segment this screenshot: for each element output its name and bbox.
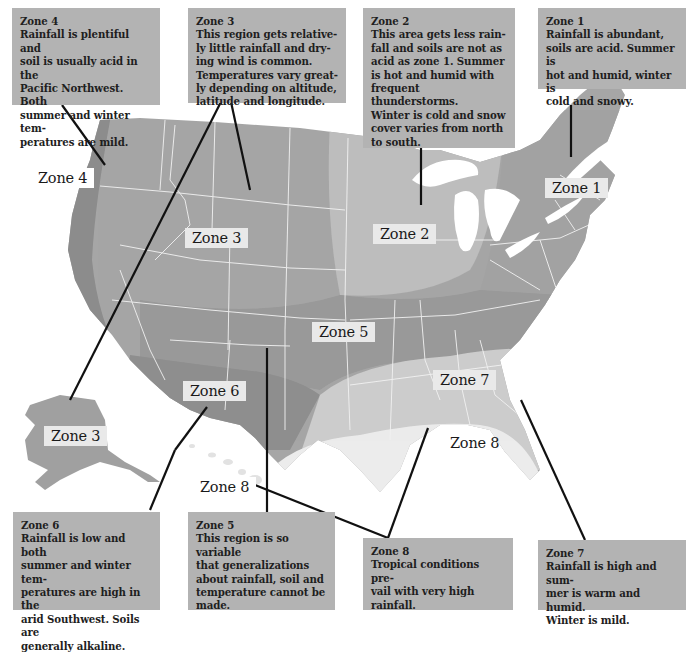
note-body: This area gets less rain- fall and soils… bbox=[371, 28, 507, 149]
note-title: Zone 2 bbox=[371, 15, 507, 28]
note-zone-4: Zone 4 Rainfall is plentiful and soil is… bbox=[12, 8, 160, 105]
note-zone-5: Zone 5 This region is so variable that g… bbox=[188, 512, 335, 610]
map-label-zone-1: Zone 1 bbox=[545, 178, 608, 198]
note-body: Rainfall is low and both summer and wint… bbox=[21, 532, 152, 653]
note-title: Zone 5 bbox=[196, 519, 327, 532]
note-title: Zone 3 bbox=[196, 15, 338, 28]
note-title: Zone 1 bbox=[546, 15, 678, 28]
map-label-zone-6: Zone 6 bbox=[183, 381, 246, 401]
note-body: This region is so variable that generali… bbox=[196, 532, 327, 612]
note-body: This region gets relative- ly little rai… bbox=[196, 28, 338, 108]
note-body: Rainfall is high and sum- mer is warm an… bbox=[546, 560, 678, 627]
note-zone-2: Zone 2 This area gets less rain- fall an… bbox=[363, 8, 515, 148]
note-zone-7: Zone 7 Rainfall is high and sum- mer is … bbox=[538, 540, 686, 610]
map-label-zone-4: Zone 4 bbox=[31, 168, 94, 188]
note-zone-3: Zone 3 This region gets relative- ly lit… bbox=[188, 8, 346, 103]
map-label-zone-2: Zone 2 bbox=[373, 224, 436, 244]
note-title: Zone 8 bbox=[371, 545, 505, 558]
map-label-zone-7: Zone 7 bbox=[433, 370, 496, 390]
note-body: Rainfall is plentiful and soil is usuall… bbox=[20, 28, 152, 149]
map-label-zone-3: Zone 3 bbox=[185, 228, 248, 248]
note-title: Zone 6 bbox=[21, 519, 152, 532]
map-label-zone-8-gulf: Zone 8 bbox=[443, 433, 506, 453]
map-label-zone-8-hawaii: Zone 8 bbox=[193, 477, 256, 497]
note-zone-6: Zone 6 Rainfall is low and both summer a… bbox=[13, 512, 160, 610]
note-body: Rainfall is abundant, soils are acid. Su… bbox=[546, 28, 678, 108]
note-zone-1: Zone 1 Rainfall is abundant, soils are a… bbox=[538, 8, 686, 89]
note-body: Tropical conditions pre- vail with very … bbox=[371, 558, 505, 612]
map-label-zone-3-alaska: Zone 3 bbox=[44, 426, 107, 446]
note-title: Zone 4 bbox=[20, 15, 152, 28]
note-zone-8: Zone 8 Tropical conditions pre- vail wit… bbox=[363, 538, 513, 610]
note-title: Zone 7 bbox=[546, 547, 678, 560]
map-label-zone-5: Zone 5 bbox=[312, 322, 375, 342]
